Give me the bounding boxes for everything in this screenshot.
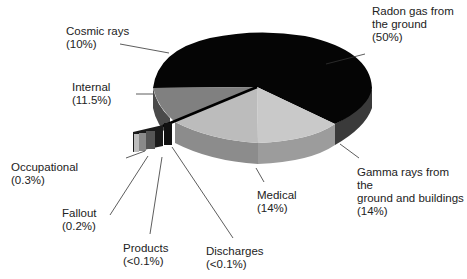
label-gamma: Gamma rays from the ground and buildings… <box>357 166 467 218</box>
label-medical: Medical (14%) <box>257 189 297 215</box>
label-products: Products (<0.1%) <box>123 242 168 268</box>
label-occupational: Occupational (0.3%) <box>11 161 78 187</box>
label-fallout: Fallout (0.2%) <box>62 207 97 233</box>
label-internal: Internal (11.5%) <box>72 81 111 107</box>
label-radon: Radon gas from the ground (50%) <box>372 5 454 44</box>
label-cosmic-rays: Cosmic rays (10%) <box>66 25 129 51</box>
label-discharges: Discharges (<0.1%) <box>206 245 264 271</box>
exploded-slices <box>133 123 172 152</box>
